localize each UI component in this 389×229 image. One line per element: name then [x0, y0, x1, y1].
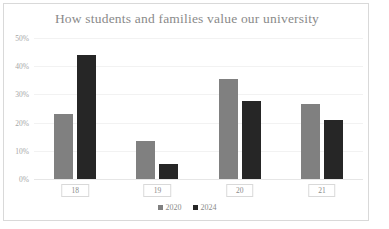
x-tick-label-18: 18 [61, 184, 89, 197]
legend-label-2024: 2024 [201, 203, 217, 212]
bar-19-2020[interactable] [136, 141, 155, 179]
y-tick-label: 10% [15, 146, 29, 155]
bar-20-2020[interactable] [219, 79, 238, 179]
bar-20-2024[interactable] [242, 101, 261, 179]
chart-card: How students and families value our univ… [3, 3, 369, 221]
x-tick-label-20: 20 [226, 184, 254, 197]
gridline-0%: 0% [34, 179, 363, 180]
bar-19-2024[interactable] [159, 164, 178, 180]
chart-legend: 20202024 [4, 203, 370, 212]
plot-area: 0%10%20%30%40%50% [34, 38, 363, 179]
y-tick-label: 40% [15, 62, 29, 71]
y-tick-label: 30% [15, 90, 29, 99]
y-tick-label: 50% [15, 34, 29, 43]
gridline-50%: 50% [34, 38, 363, 39]
chart-title: How students and families value our univ… [4, 11, 370, 27]
y-tick-label: 0% [19, 175, 29, 184]
legend-swatch-2020 [158, 205, 163, 210]
x-axis-labels: 18192021 [34, 182, 363, 198]
x-tick-label-19: 19 [144, 184, 172, 197]
bar-21-2020[interactable] [301, 104, 320, 179]
legend-item-2020[interactable]: 2020 [158, 203, 182, 212]
y-tick-label: 20% [15, 118, 29, 127]
bar-18-2020[interactable] [54, 114, 73, 179]
bar-21-2024[interactable] [324, 120, 343, 179]
legend-swatch-2024 [193, 205, 198, 210]
x-tick-label-21: 21 [308, 184, 336, 197]
bar-18-2024[interactable] [77, 55, 96, 179]
legend-label-2020: 2020 [166, 203, 182, 212]
legend-item-2024[interactable]: 2024 [193, 203, 217, 212]
